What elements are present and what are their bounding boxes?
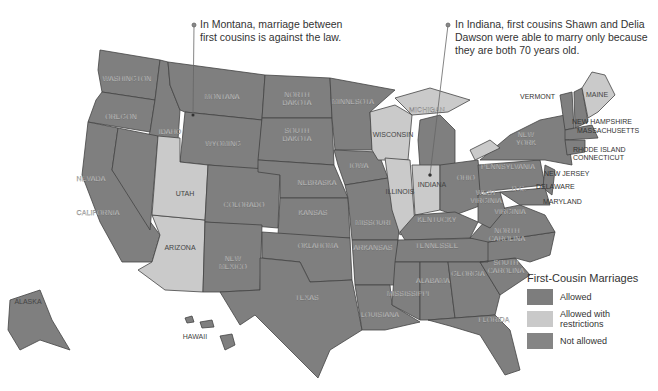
label-west-virginia-2: VIRGINIA bbox=[470, 197, 502, 204]
label-wisconsin: WISCONSIN bbox=[373, 131, 413, 138]
label-arizona: ARIZONA bbox=[164, 244, 195, 251]
label-south-carolina-2: CAROLINA bbox=[488, 267, 525, 274]
state-ohio[interactable] bbox=[440, 160, 482, 215]
indiana-note-line1: In Indiana, first cousins Shawn and Deli… bbox=[455, 18, 648, 31]
label-california: CALIFORNIA bbox=[76, 209, 119, 216]
indiana-pin bbox=[429, 174, 432, 177]
label-oregon: OREGON bbox=[105, 113, 137, 120]
legend-swatch-allowed bbox=[527, 289, 553, 305]
label-mississippi: MISSISSIPPI bbox=[387, 290, 430, 297]
state-kansas[interactable] bbox=[278, 198, 350, 238]
montana-pin bbox=[192, 114, 195, 117]
label-south-carolina: SOUTH bbox=[494, 259, 519, 266]
label-new-york-2: YORK bbox=[516, 139, 536, 146]
state-hawaii-1[interactable] bbox=[185, 316, 194, 323]
label-south-dakota-2: DAKOTA bbox=[283, 135, 312, 142]
indiana-note-line3: they are both 70 years old. bbox=[455, 44, 648, 57]
legend-swatch-restricted bbox=[527, 311, 553, 327]
montana-callout-dot bbox=[192, 23, 196, 27]
state-montana[interactable] bbox=[168, 62, 265, 120]
legend-label-not-allowed: Not allowed bbox=[560, 336, 607, 346]
montana-annotation: In Montana, marriage between first cousi… bbox=[200, 18, 342, 44]
label-georgia: GEORGIA bbox=[451, 270, 485, 277]
label-wyoming: WYOMING bbox=[205, 140, 241, 147]
label-maine: MAINE bbox=[586, 91, 609, 98]
label-arkansas: ARKANSAS bbox=[354, 244, 393, 251]
legend-label-restricted-1: Allowed with bbox=[560, 309, 610, 319]
legend-item-restricted: Allowed with restrictions bbox=[527, 310, 638, 328]
label-kentucky: KENTUCKY bbox=[418, 216, 457, 223]
legend-label-restricted: Allowed with restrictions bbox=[560, 309, 610, 329]
label-alabama: ALABAMA bbox=[416, 277, 450, 284]
legend-item-allowed: Allowed bbox=[527, 288, 638, 306]
label-montana: MONTANA bbox=[204, 93, 239, 100]
label-rhode-island: RHODE ISLAND bbox=[573, 146, 626, 153]
label-new-york: NEW bbox=[518, 131, 535, 138]
label-alaska: ALASKA bbox=[14, 298, 42, 305]
label-north-dakota: NORTH bbox=[284, 91, 309, 98]
state-colorado[interactable] bbox=[205, 165, 280, 228]
label-maryland: MARYLAND bbox=[543, 198, 582, 205]
label-south-dakota: SOUTH bbox=[285, 127, 310, 134]
state-florida[interactable] bbox=[428, 315, 520, 375]
label-west-virginia: WEST bbox=[476, 189, 497, 196]
label-north-carolina: NORTH bbox=[494, 227, 519, 234]
label-iowa: IOWA bbox=[350, 162, 369, 169]
label-delaware: DELAWARE bbox=[536, 183, 575, 190]
label-new-hampshire: NEW HAMPSHIRE bbox=[572, 118, 632, 125]
label-indiana: INDIANA bbox=[418, 181, 447, 188]
indiana-annotation: In Indiana, first cousins Shawn and Deli… bbox=[455, 18, 648, 57]
label-michigan: MICHIGAN bbox=[409, 106, 445, 113]
label-nebraska: NEBRASKA bbox=[298, 179, 337, 186]
label-colorado: COLORADO bbox=[224, 201, 265, 208]
label-florida: FLORIDA bbox=[478, 316, 509, 323]
legend: First-Cousin Marriages Allowed Allowed w… bbox=[527, 272, 638, 354]
label-vermont: VERMONT bbox=[520, 93, 556, 100]
legend-label-allowed: Allowed bbox=[560, 292, 592, 302]
label-louisiana: LOUISIANA bbox=[361, 311, 399, 318]
label-connecticut: CONNECTICUT bbox=[573, 154, 625, 161]
label-north-dakota-2: DAKOTA bbox=[283, 99, 312, 106]
legend-title: First-Cousin Marriages bbox=[527, 272, 638, 284]
legend-item-not-allowed: Not allowed bbox=[527, 332, 638, 350]
legend-label-restricted-2: restrictions bbox=[560, 319, 610, 329]
label-utah: UTAH bbox=[176, 190, 195, 197]
label-idaho: IDAHO bbox=[159, 128, 182, 135]
label-oklahoma: OKLAHOMA bbox=[298, 242, 339, 249]
legend-swatch-not-allowed bbox=[527, 333, 553, 349]
label-north-carolina-2: CAROLINA bbox=[489, 235, 526, 242]
label-kansas: KANSAS bbox=[299, 209, 328, 216]
label-washington: WASHINGTON bbox=[103, 75, 152, 82]
label-nevada: NEVADA bbox=[77, 175, 106, 182]
label-pennsylvania: PENNSYLVANIA bbox=[481, 163, 535, 170]
label-new-mexico-2: MEXICO bbox=[219, 263, 248, 270]
label-massachusetts: MASSACHUSETTS bbox=[577, 127, 640, 134]
label-illinois: ILLINOIS bbox=[386, 188, 415, 195]
label-tennessee: TENNESSEE bbox=[415, 242, 459, 249]
label-missouri: MISSOURI bbox=[355, 219, 390, 226]
montana-note-line2: first cousins is against the law. bbox=[200, 31, 342, 44]
label-virginia: VIRGINIA bbox=[494, 208, 526, 215]
label-ohio: OHIO bbox=[457, 174, 476, 181]
label-minnesota: MINNESOTA bbox=[332, 98, 374, 105]
indiana-note-line2: Dawson were able to marry only because bbox=[455, 31, 648, 44]
label-new-mexico: NEW bbox=[225, 255, 242, 262]
state-hawaii-3[interactable] bbox=[220, 334, 235, 350]
state-indiana[interactable] bbox=[412, 165, 440, 215]
label-dc-visible: D.C. bbox=[512, 185, 526, 192]
montana-note-line1: In Montana, marriage between bbox=[200, 18, 342, 31]
label-hawaii: HAWAII bbox=[183, 333, 207, 340]
indiana-callout-dot bbox=[446, 23, 450, 27]
label-new-jersey: NEW JERSEY bbox=[544, 170, 590, 177]
label-texas: TEXAS bbox=[295, 294, 319, 301]
state-hawaii-2[interactable] bbox=[200, 320, 214, 328]
